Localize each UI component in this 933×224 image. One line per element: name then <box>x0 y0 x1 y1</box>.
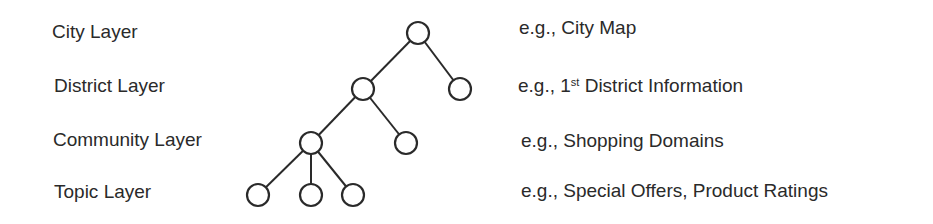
node-topic-2 <box>300 184 322 206</box>
example-community: e.g., Shopping Domains <box>521 130 724 152</box>
example-district: e.g., 1st District Information <box>518 71 743 97</box>
node-city-root <box>407 22 429 44</box>
example-topic: e.g., Special Offers, Product Ratings <box>521 180 828 202</box>
node-district-2 <box>449 78 471 100</box>
example-city: e.g., City Map <box>519 17 636 39</box>
node-topic-1 <box>247 184 269 206</box>
node-community-1 <box>300 132 322 154</box>
node-community-2 <box>395 132 417 154</box>
node-district-1 <box>352 78 374 100</box>
node-topic-3 <box>342 184 364 206</box>
